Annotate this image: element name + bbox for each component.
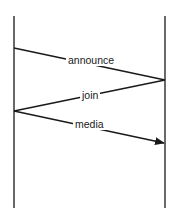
sequence-diagram <box>0 0 175 216</box>
announce-label: announce <box>66 54 116 66</box>
media-label: media <box>73 118 106 130</box>
join-label: join <box>80 89 100 101</box>
